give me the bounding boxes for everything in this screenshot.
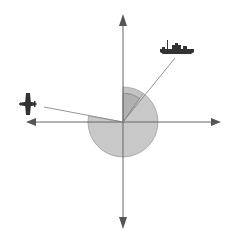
- arrow-up-icon: [119, 14, 127, 26]
- ship-icon: [160, 40, 194, 54]
- diagram-canvas: [0, 0, 237, 244]
- bearing-diagram: [0, 0, 237, 244]
- airplane-icon: [19, 93, 37, 115]
- plane-bearing-line: [44, 107, 123, 122]
- arrow-left-icon: [26, 118, 36, 126]
- arrow-right-icon: [211, 118, 221, 126]
- arrow-down-icon: [119, 217, 127, 229]
